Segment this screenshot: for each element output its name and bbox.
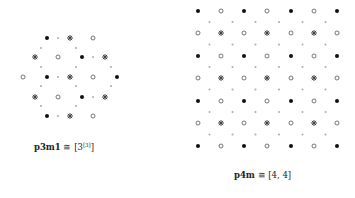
open-point-icon xyxy=(265,144,269,148)
small-point-icon xyxy=(75,105,77,107)
small-point-icon xyxy=(278,44,280,46)
small-point-icon xyxy=(302,134,304,136)
small-point-icon xyxy=(278,89,280,91)
open-point-icon xyxy=(219,144,223,148)
small-point-icon xyxy=(302,111,304,113)
star-point-icon xyxy=(264,75,270,81)
star-point-icon xyxy=(264,30,270,36)
small-point-icon xyxy=(255,89,257,91)
small-point-icon xyxy=(325,134,327,136)
open-point-icon xyxy=(335,31,339,35)
small-point-icon xyxy=(232,89,234,91)
small-point-icon xyxy=(57,115,59,117)
open-point-icon xyxy=(335,121,339,125)
p3m1-closing: ] xyxy=(91,142,94,152)
open-point-icon xyxy=(196,76,200,80)
star-point-icon xyxy=(32,54,38,60)
small-point-icon xyxy=(110,66,112,68)
small-point-icon xyxy=(209,21,211,23)
p3m1-relation: ≅ [3 xyxy=(61,142,83,152)
open-point-icon xyxy=(312,144,316,148)
small-point-icon xyxy=(325,44,327,46)
star-point-icon xyxy=(67,74,73,80)
small-point-icon xyxy=(40,85,42,87)
small-point-icon xyxy=(302,89,304,91)
small-point-icon xyxy=(232,66,234,68)
open-point-icon xyxy=(312,99,316,103)
filled-point-icon xyxy=(335,54,339,58)
open-point-icon xyxy=(265,9,269,13)
p3m1-label: p3m1 ≅ [3[3]] xyxy=(34,142,94,152)
filled-point-icon xyxy=(196,54,200,58)
filled-point-icon xyxy=(289,9,293,13)
small-point-icon xyxy=(278,66,280,68)
star-point-icon xyxy=(102,94,108,100)
p3m1-symbol: p3m1 xyxy=(34,142,61,152)
lattice-diagram xyxy=(0,0,355,198)
open-point-icon xyxy=(219,9,223,13)
open-point-icon xyxy=(242,121,246,125)
open-point-icon xyxy=(289,76,293,80)
p4m-label: p4m ≅ [4, 4] xyxy=(234,170,291,180)
open-point-icon xyxy=(289,121,293,125)
filled-point-icon xyxy=(242,9,246,13)
open-point-icon xyxy=(219,99,223,103)
small-point-icon xyxy=(75,85,77,87)
p3m1-superscript: [3] xyxy=(83,142,91,148)
star-point-icon xyxy=(102,54,108,60)
open-point-icon xyxy=(242,76,246,80)
small-point-icon xyxy=(209,134,211,136)
small-point-icon xyxy=(325,111,327,113)
small-point-icon xyxy=(209,111,211,113)
small-point-icon xyxy=(325,66,327,68)
star-point-icon xyxy=(311,120,317,126)
filled-point-icon xyxy=(80,55,84,59)
star-point-icon xyxy=(218,120,224,126)
filled-point-icon xyxy=(45,75,49,79)
small-point-icon xyxy=(232,21,234,23)
open-point-icon xyxy=(265,99,269,103)
small-point-icon xyxy=(232,44,234,46)
small-point-icon xyxy=(209,44,211,46)
open-point-icon xyxy=(91,114,95,118)
filled-point-icon xyxy=(115,75,119,79)
open-point-icon xyxy=(312,54,316,58)
star-point-icon xyxy=(218,30,224,36)
filled-point-icon xyxy=(45,36,49,40)
small-point-icon xyxy=(325,21,327,23)
filled-point-icon xyxy=(80,95,84,99)
small-point-icon xyxy=(232,111,234,113)
small-point-icon xyxy=(57,76,59,78)
star-point-icon xyxy=(67,113,73,119)
small-point-icon xyxy=(209,66,211,68)
open-point-icon xyxy=(56,55,60,59)
small-point-icon xyxy=(110,85,112,87)
open-point-icon xyxy=(21,75,25,79)
small-point-icon xyxy=(92,56,94,58)
small-point-icon xyxy=(40,66,42,68)
small-point-icon xyxy=(278,21,280,23)
small-point-icon xyxy=(92,96,94,98)
open-point-icon xyxy=(335,76,339,80)
small-point-icon xyxy=(75,47,77,49)
open-point-icon xyxy=(91,36,95,40)
open-point-icon xyxy=(242,31,246,35)
star-point-icon xyxy=(264,120,270,126)
filled-point-icon xyxy=(335,99,339,103)
small-point-icon xyxy=(302,66,304,68)
open-point-icon xyxy=(196,121,200,125)
star-point-icon xyxy=(218,75,224,81)
open-point-icon xyxy=(56,95,60,99)
open-point-icon xyxy=(289,31,293,35)
small-point-icon xyxy=(255,44,257,46)
filled-point-icon xyxy=(45,114,49,118)
star-point-icon xyxy=(32,94,38,100)
star-point-icon xyxy=(67,35,73,41)
small-point-icon xyxy=(209,89,211,91)
filled-point-icon xyxy=(196,9,200,13)
filled-point-icon xyxy=(335,144,339,148)
small-point-icon xyxy=(40,47,42,49)
filled-point-icon xyxy=(289,99,293,103)
p4m-symbol: p4m xyxy=(234,170,255,180)
filled-point-icon xyxy=(196,144,200,148)
